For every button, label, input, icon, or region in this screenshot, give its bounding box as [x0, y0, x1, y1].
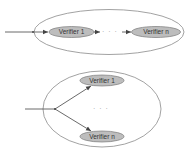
input-junction-dot [32, 31, 34, 33]
verifier-label: Verifier n [89, 133, 115, 140]
verifier-node: Verifier n [80, 131, 124, 142]
sequential-composition: Verifier 1 · · · Verifier n [5, 10, 184, 55]
branch-arrow [55, 109, 91, 131]
verifier-node: Verifier n [132, 27, 181, 38]
parallel-composition: Verifier 1 · · · Verifier n [25, 71, 161, 147]
verifier-node: Verifier 1 [49, 27, 94, 38]
verifier-node: Verifier 1 [80, 75, 124, 86]
branch-arrow [55, 86, 91, 109]
verifier-label: Verifier n [143, 28, 169, 35]
ellipsis: · · · [93, 105, 109, 112]
verifier-composition-diagram: Verifier 1 · · · Verifier n Verifier 1 ·… [0, 0, 192, 158]
verifier-label: Verifier 1 [59, 28, 85, 35]
ellipsis: · · · [102, 28, 118, 35]
verifier-label: Verifier 1 [89, 77, 115, 84]
